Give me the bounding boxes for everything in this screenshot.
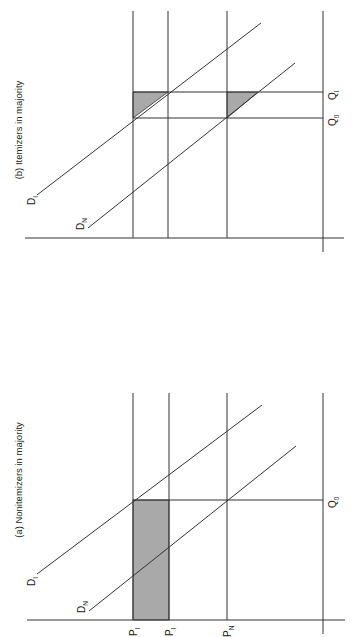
label-di-a: DI [26, 577, 39, 586]
shaded-triangle-left [133, 92, 168, 118]
label-q1: QI [327, 90, 340, 100]
demand-curve-dn-b [88, 63, 295, 228]
panel-a-title: (a) Nonitemizers in majority [13, 422, 24, 538]
label-pi-2: PI [164, 627, 177, 636]
label-dn-a: DN [76, 601, 89, 613]
label-dn-b: DN [75, 218, 88, 230]
shaded-rectangle [133, 500, 169, 620]
label-pi-1: PI [128, 627, 141, 636]
panel-b: (b) Itemizers in majority DI DN QI Q0 [13, 11, 344, 252]
label-q0-a: Q0 [327, 496, 340, 508]
label-q0-b: Q0 [327, 114, 340, 126]
label-di-b: DI [26, 196, 39, 205]
demand-curve-dn-a [89, 446, 296, 611]
label-pn: PN [222, 625, 235, 637]
diagram-canvas: (b) Itemizers in majority DI DN QI Q0 (a… [0, 0, 355, 637]
panel-a: (a) Nonitemizers in majority DI DN PI PI… [13, 393, 345, 637]
panel-b-title: (b) Itemizers in majority [13, 80, 24, 179]
